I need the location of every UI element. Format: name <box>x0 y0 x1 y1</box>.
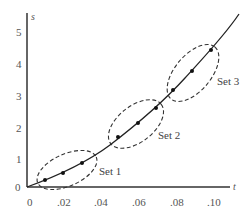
point-set-1 <box>43 178 47 182</box>
y-tick: 2 <box>16 122 22 134</box>
y-tick: 0 <box>15 181 21 193</box>
y-axis-label: s <box>31 11 35 22</box>
set-3-ellipse <box>157 35 228 110</box>
y-tick: 5 <box>16 26 22 38</box>
x-tick: .04 <box>94 196 108 208</box>
point-set-1 <box>80 161 84 165</box>
point-set-2 <box>154 106 158 110</box>
chart: t s 0 .02 .04 .06 .08 .10 0 1 2 3 4 5 Se… <box>0 0 252 218</box>
x-tick: .06 <box>132 196 146 208</box>
point-set-1 <box>61 171 65 175</box>
y-tick: 3 <box>16 90 22 102</box>
point-set-3 <box>190 69 194 73</box>
point-set-3 <box>209 48 213 52</box>
point-set-2 <box>136 121 140 125</box>
set-3-label: Set 3 <box>217 75 240 87</box>
y-tick-labels: 0 1 2 3 4 5 <box>15 26 22 193</box>
point-set-2 <box>116 135 120 139</box>
set-2-label: Set 2 <box>158 129 180 141</box>
x-tick-labels: 0 .02 .04 .06 .08 .10 <box>27 196 221 208</box>
x-tick: .02 <box>57 196 71 208</box>
y-tick: 4 <box>16 58 22 70</box>
x-tick: .08 <box>170 196 184 208</box>
data-points <box>43 48 213 182</box>
set-1-label: Set 1 <box>99 165 121 177</box>
x-tick: .10 <box>207 196 221 208</box>
y-tick: 1 <box>16 153 22 165</box>
curve-line <box>27 14 239 187</box>
x-tick: 0 <box>27 196 33 208</box>
point-set-3 <box>171 88 175 92</box>
x-axis-label: t <box>233 181 236 192</box>
